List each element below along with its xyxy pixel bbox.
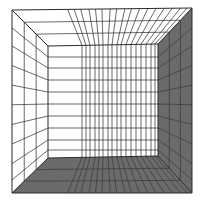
room-surfaces <box>12 8 192 193</box>
perspective-room-diagram <box>0 0 200 210</box>
room-svg <box>0 0 200 210</box>
